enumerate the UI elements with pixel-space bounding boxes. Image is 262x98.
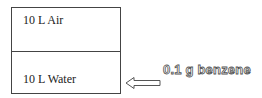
air-compartment-label: 10 L Air [23, 13, 63, 28]
benzene-input-label: 0.1 g benzene [163, 62, 251, 77]
container-box: 10 L Air 10 L Water [11, 7, 121, 94]
left-arrow-icon [125, 76, 161, 90]
compartment-divider [12, 51, 120, 52]
water-compartment-label: 10 L Water [23, 72, 76, 87]
